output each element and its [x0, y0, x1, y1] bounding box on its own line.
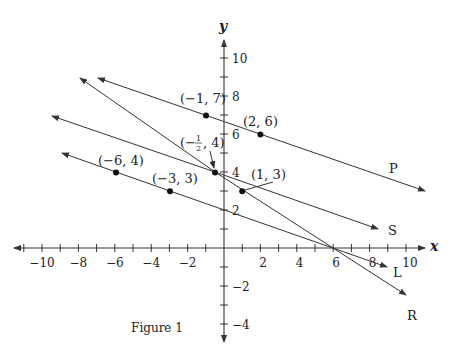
line-label-p: P	[389, 161, 398, 176]
point-label: (−6, 4)	[98, 153, 144, 168]
x-tick-label: −6	[106, 256, 124, 270]
y-tick-label: 6	[232, 128, 240, 142]
y-tick-label: 8	[232, 90, 240, 104]
x-tick-label: −2	[179, 256, 197, 270]
x-tick-label: −4	[142, 256, 160, 270]
point-dot	[257, 132, 263, 138]
point-dot	[113, 169, 119, 175]
point-label-half-suffix: , 4)	[203, 135, 225, 150]
point-dot	[203, 113, 209, 119]
x-tick-label: −10	[29, 256, 54, 270]
y-tick-label: 2	[232, 204, 240, 218]
point-dot	[167, 188, 173, 194]
leader-line	[245, 182, 273, 190]
y-tick-label: −4	[232, 318, 250, 332]
fraction-denominator: 2	[196, 144, 201, 153]
line-r	[80, 78, 406, 295]
point-label: (−3, 3)	[152, 171, 198, 186]
point-dot	[239, 188, 245, 194]
x-tick-label: 6	[332, 256, 340, 270]
y-tick-label: 10	[232, 52, 247, 66]
x-tick-label: 4	[296, 256, 304, 270]
point-label: (1, 3)	[251, 167, 286, 182]
y-tick-label: −2	[232, 280, 250, 294]
line-label-r: R	[407, 308, 418, 323]
y-axis-label: y	[218, 18, 228, 34]
point-dot	[212, 169, 218, 175]
coordinate-plane-figure: −10 −8 −6 −4 −2 2 4 6 8 10 10 8 6 4 2 −2…	[0, 0, 461, 359]
x-tick-label: −8	[70, 256, 88, 270]
point-label: (−1, 7)	[180, 91, 226, 106]
x-axis-label: x	[429, 238, 439, 254]
fraction-numerator: 1	[196, 134, 201, 143]
line-label-s: S	[388, 223, 397, 238]
point-label-half: (−	[180, 135, 196, 150]
pointer-arrow	[210, 151, 214, 168]
figure-caption: Figure 1	[131, 321, 183, 335]
x-tick-label: 10	[402, 256, 417, 270]
x-tick-label: 2	[259, 256, 267, 270]
point-label: (2, 6)	[243, 114, 278, 129]
line-label-l: L	[393, 265, 402, 280]
